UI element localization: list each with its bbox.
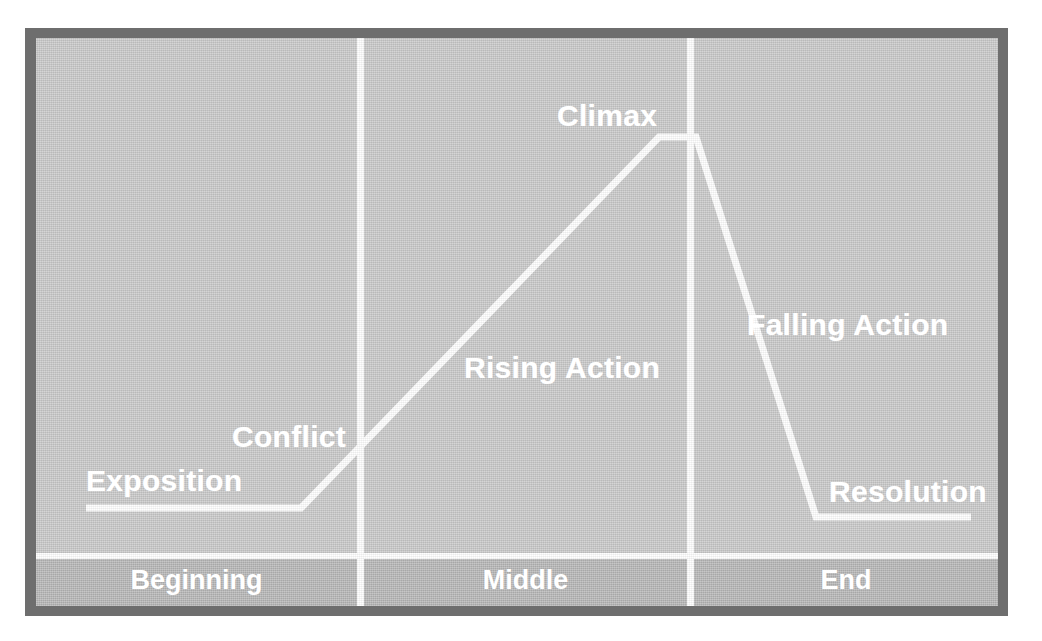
diagram-plate: Exposition Conflict Rising Action Climax… — [36, 38, 998, 606]
stage-label-end: End — [694, 565, 998, 596]
stage-divider-beginning-middle — [357, 38, 364, 606]
label-rising-action: Rising Action — [464, 351, 660, 385]
label-exposition: Exposition — [86, 464, 242, 498]
plot-diagram-page: Exposition Conflict Rising Action Climax… — [0, 0, 1042, 641]
label-resolution: Resolution — [829, 475, 987, 509]
axis-baseline — [36, 553, 998, 559]
stage-divider-middle-end — [687, 38, 694, 606]
label-climax: Climax — [557, 99, 657, 133]
label-falling-action: Falling Action — [747, 308, 948, 342]
label-conflict: Conflict — [232, 420, 346, 454]
stage-label-beginning: Beginning — [36, 565, 357, 596]
diagram-frame: Exposition Conflict Rising Action Climax… — [25, 28, 1008, 616]
stage-label-middle: Middle — [364, 565, 687, 596]
